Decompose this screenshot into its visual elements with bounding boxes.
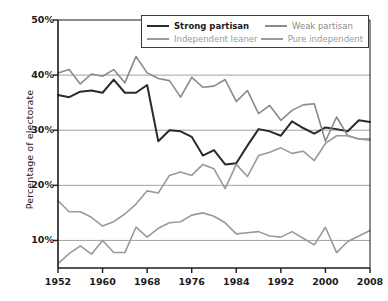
legend-swatch-strong-partisan	[147, 25, 169, 27]
legend-label-pure-independent: Pure independent	[288, 34, 363, 44]
legend-row-2: Independent leaner Pure independent	[147, 32, 363, 45]
y-tick-label: 10%	[22, 234, 54, 245]
x-tick-label: 1952	[36, 276, 80, 287]
x-tick-label: 2008	[348, 276, 388, 287]
x-tick-label: 1976	[170, 276, 214, 287]
x-tick-label: 2000	[303, 276, 347, 287]
y-tick-label: 50%	[22, 14, 54, 25]
x-tick-label: 1992	[259, 276, 303, 287]
legend-item-independent-leaner: Independent leaner	[147, 32, 261, 45]
x-tick-label: 1960	[81, 276, 125, 287]
legend-row-1: Strong partisan Weak partisan	[147, 19, 363, 32]
series-line-pure-independent	[58, 213, 370, 264]
y-axis-tick-labels: 10%20%30%40%50%	[18, 0, 54, 301]
series-line-strong-partisan	[58, 80, 370, 165]
legend-label-weak-partisan: Weak partisan	[292, 21, 353, 31]
legend-label-strong-partisan: Strong partisan	[174, 21, 249, 31]
line-chart: Percentage of electorate 10%20%30%40%50%…	[0, 0, 388, 301]
legend-swatch-weak-partisan	[265, 25, 287, 27]
x-tick-label: 1968	[125, 276, 169, 287]
legend-swatch-independent-leaner	[147, 38, 169, 40]
y-tick-label: 30%	[22, 124, 54, 135]
legend-item-weak-partisan: Weak partisan	[265, 19, 353, 32]
legend-item-pure-independent: Pure independent	[261, 32, 363, 45]
legend-item-strong-partisan: Strong partisan	[147, 19, 265, 32]
legend-swatch-pure-independent	[261, 38, 283, 40]
legend-label-independent-leaner: Independent leaner	[174, 34, 258, 44]
x-tick-label: 1984	[214, 276, 258, 287]
y-tick-label: 20%	[22, 179, 54, 190]
y-tick-label: 40%	[22, 69, 54, 80]
chart-legend: Strong partisan Weak partisan Independen…	[141, 15, 369, 48]
